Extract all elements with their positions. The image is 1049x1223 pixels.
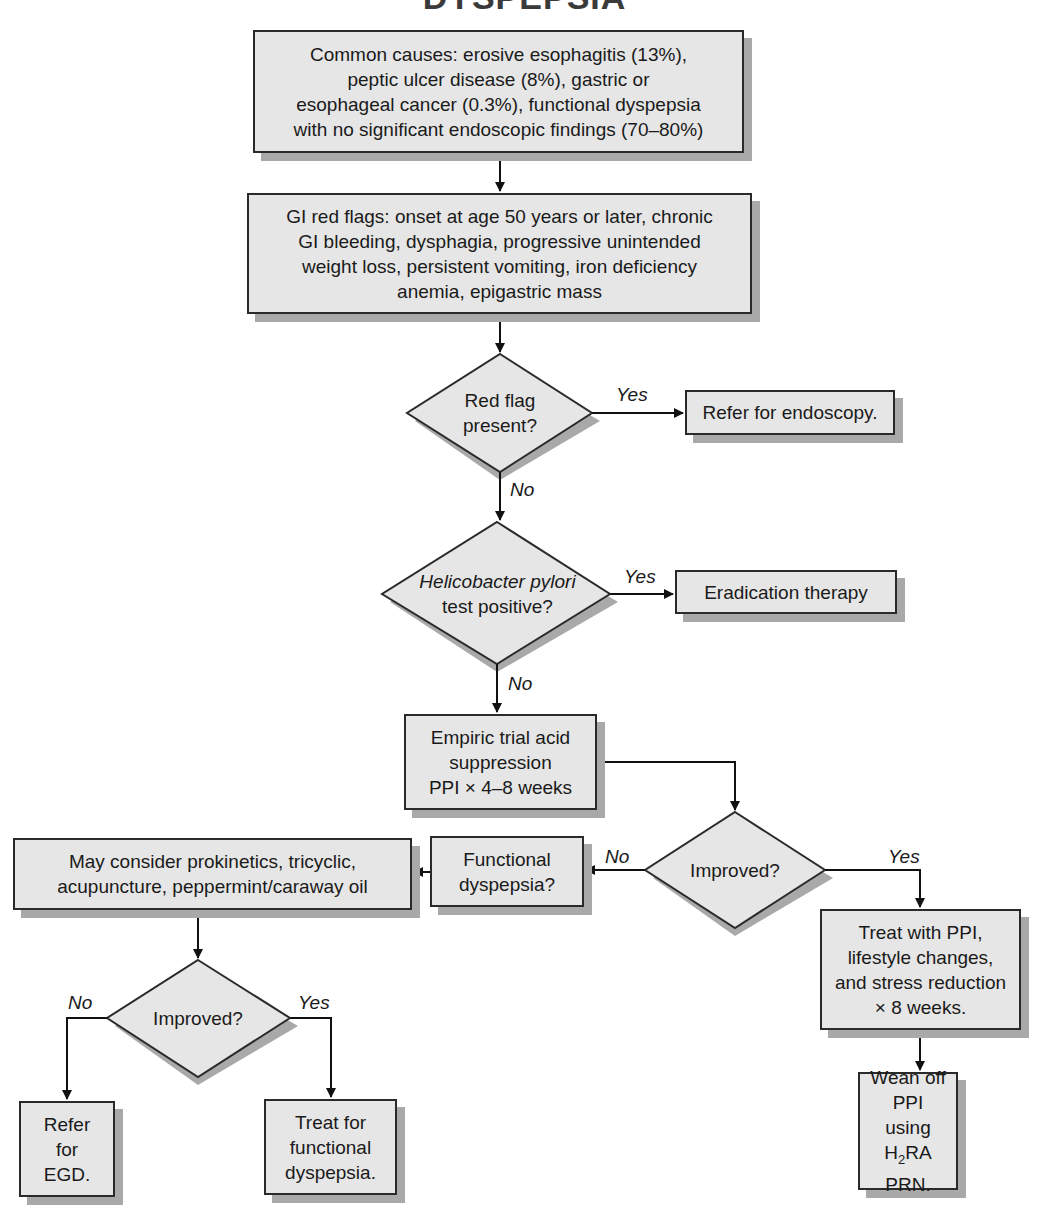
edge-label-yes: Yes bbox=[616, 384, 648, 406]
wean-line: Wean off bbox=[868, 1065, 948, 1090]
edge-label-yes: Yes bbox=[298, 992, 330, 1014]
may-consider-box: May consider prokinetics, tricyclic, acu… bbox=[13, 838, 412, 910]
treat-ppi-line: × 8 weeks. bbox=[835, 995, 1006, 1020]
empiric-trial-box: Empiric trial acid suppression PPI × 4–8… bbox=[404, 714, 597, 810]
h2ra-h: H bbox=[884, 1142, 898, 1163]
common-causes-line: Common causes: erosive esophagitis (13%)… bbox=[294, 42, 704, 67]
wean-line-h2ra: H2RA bbox=[868, 1140, 948, 1172]
treat-ppi-line: and stress reduction bbox=[835, 970, 1006, 995]
may-consider-line: acupuncture, peppermint/caraway oil bbox=[57, 874, 368, 899]
treat-functional-line: Treat for bbox=[285, 1110, 376, 1135]
h2ra-ra: RA bbox=[905, 1142, 931, 1163]
decision-line: Improved? bbox=[153, 1006, 243, 1031]
functional-dyspepsia-box: Functional dyspepsia? bbox=[430, 836, 584, 907]
edge-label-no: No bbox=[510, 479, 534, 501]
refer-egd-line: for bbox=[44, 1137, 90, 1162]
red-flags-line: GI bleeding, dysphagia, progressive unin… bbox=[286, 229, 713, 254]
may-consider-line: May consider prokinetics, tricyclic, bbox=[57, 849, 368, 874]
empiric-line: suppression bbox=[429, 750, 572, 775]
decision-hpylori-text: Helicobacter pylori test positive? bbox=[395, 564, 600, 624]
treat-functional-box: Treat for functional dyspepsia. bbox=[264, 1099, 397, 1195]
refer-egd-line: EGD. bbox=[44, 1162, 90, 1187]
refer-egd-box: Refer for EGD. bbox=[19, 1101, 115, 1197]
red-flags-line: weight loss, persistent vomiting, iron d… bbox=[286, 254, 713, 279]
common-causes-line: esophageal cancer (0.3%), functional dys… bbox=[294, 92, 704, 117]
refer-endoscopy-text: Refer for endoscopy. bbox=[703, 400, 878, 425]
treat-ppi-line: lifestyle changes, bbox=[835, 945, 1006, 970]
treat-functional-line: functional bbox=[285, 1135, 376, 1160]
edge-label-yes: Yes bbox=[624, 566, 656, 588]
wean-line: PRN. bbox=[868, 1172, 948, 1197]
decision-line: test positive? bbox=[419, 594, 575, 619]
treat-with-ppi-box: Treat with PPI, lifestyle changes, and s… bbox=[820, 909, 1021, 1030]
red-flags-line: GI red flags: onset at age 50 years or l… bbox=[286, 204, 713, 229]
empiric-line: PPI × 4–8 weeks bbox=[429, 775, 572, 800]
decision-line: present? bbox=[463, 413, 537, 438]
decision-red-flag-text: Red flag present? bbox=[420, 383, 580, 443]
wean-off-ppi-box: Wean off PPI using H2RA PRN. bbox=[858, 1072, 958, 1190]
edge-label-no: No bbox=[508, 673, 532, 695]
edge-label-no: No bbox=[605, 846, 629, 868]
decision-line: Red flag bbox=[463, 388, 537, 413]
eradication-therapy-box: Eradication therapy bbox=[675, 570, 897, 614]
red-flags-box: GI red flags: onset at age 50 years or l… bbox=[247, 193, 752, 314]
decision-improved-2-text: Improved? bbox=[128, 1003, 268, 1033]
functional-line: dyspepsia? bbox=[459, 872, 555, 897]
functional-line: Functional bbox=[459, 847, 555, 872]
treat-functional-line: dyspepsia. bbox=[285, 1160, 376, 1185]
decision-line: Improved? bbox=[690, 858, 780, 883]
common-causes-line: peptic ulcer disease (8%), gastric or bbox=[294, 67, 704, 92]
eradication-therapy-text: Eradication therapy bbox=[704, 580, 868, 605]
decision-line: Helicobacter pylori bbox=[419, 569, 575, 594]
red-flags-line: anemia, epigastric mass bbox=[286, 279, 713, 304]
refer-endoscopy-box: Refer for endoscopy. bbox=[685, 390, 895, 435]
edge-label-yes: Yes bbox=[888, 846, 920, 868]
refer-egd-line: Refer bbox=[44, 1112, 90, 1137]
common-causes-line: with no significant endoscopic findings … bbox=[294, 117, 704, 142]
wean-line: PPI using bbox=[868, 1090, 948, 1140]
decision-improved-1-text: Improved? bbox=[665, 855, 805, 885]
empiric-line: Empiric trial acid bbox=[429, 725, 572, 750]
treat-ppi-line: Treat with PPI, bbox=[835, 920, 1006, 945]
common-causes-box: Common causes: erosive esophagitis (13%)… bbox=[253, 30, 744, 153]
edge-label-no: No bbox=[68, 992, 92, 1014]
